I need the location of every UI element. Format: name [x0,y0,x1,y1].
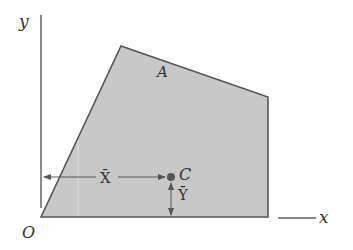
y-bar-label: Ȳ [177,186,189,204]
centroid-label: C [179,165,191,184]
x-axis-label: x [319,207,329,227]
area-region [41,46,268,217]
y-axis-label: y [18,11,29,31]
x-bar-label: X̄ [100,169,111,187]
centroid-point [167,173,175,181]
centroid-diagram: y x O A C X̄ Ȳ [0,0,353,250]
area-label: A [155,63,168,81]
origin-label: O [22,223,35,242]
